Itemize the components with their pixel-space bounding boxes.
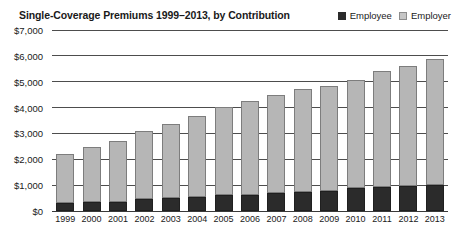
x-tick-label-2011: 2011: [372, 214, 391, 224]
bar-segment-employer-2007: [267, 95, 285, 193]
legend-label-employer: Employer: [411, 10, 451, 21]
bar-segment-employee-2003: [162, 198, 180, 211]
bar-2002[interactable]: [135, 30, 153, 211]
bar-segment-employee-2013: [426, 185, 444, 211]
bar-segment-employer-2001: [109, 141, 127, 201]
x-tick-label-2002: 2002: [134, 214, 154, 224]
bar-segment-employee-2002: [135, 199, 153, 211]
x-tick-label-2007: 2007: [266, 214, 286, 224]
bar-segment-employee-2010: [347, 188, 365, 211]
bar-segment-employer-2003: [162, 124, 180, 198]
chart-legend: Employee Employer: [338, 10, 451, 21]
y-tick-label-2000: $2,000: [14, 154, 43, 165]
bar-segment-employee-2011: [373, 187, 391, 211]
legend-item-employee[interactable]: Employee: [338, 10, 392, 21]
bar-2000[interactable]: [83, 30, 101, 211]
x-tick-label-2013: 2013: [425, 214, 445, 224]
chart-plot-area: [52, 30, 448, 211]
x-tick-label-2009: 2009: [319, 214, 339, 224]
bar-2011[interactable]: [373, 30, 391, 211]
legend-swatch-employee-icon: [338, 12, 346, 20]
bar-segment-employer-2005: [215, 107, 233, 195]
bar-segment-employer-2013: [426, 59, 444, 185]
bar-2004[interactable]: [188, 30, 206, 211]
bar-segment-employer-2008: [294, 89, 312, 192]
bar-segment-employee-2009: [320, 191, 338, 211]
bar-segment-employer-2002: [135, 131, 153, 199]
y-tick-label-3000: $3,000: [14, 128, 43, 139]
bar-segment-employee-2006: [241, 195, 259, 211]
bar-segment-employer-2006: [241, 101, 259, 194]
bar-1999[interactable]: [56, 30, 74, 211]
bar-segment-employer-2012: [399, 66, 417, 187]
x-tick-label-2001: 2001: [108, 214, 128, 224]
bar-2013[interactable]: [426, 30, 444, 211]
bar-segment-employer-2000: [83, 147, 101, 202]
x-tick-label-1999: 1999: [55, 214, 75, 224]
x-tick-label-2000: 2000: [82, 214, 102, 224]
bar-2008[interactable]: [294, 30, 312, 211]
y-tick-label-5000: $5,000: [14, 76, 43, 87]
y-tick-label-4000: $4,000: [14, 102, 43, 113]
bar-2012[interactable]: [399, 30, 417, 211]
legend-swatch-employer-icon: [399, 12, 407, 20]
bar-2006[interactable]: [241, 30, 259, 211]
x-tick-label-2012: 2012: [398, 214, 418, 224]
bar-segment-employee-1999: [56, 203, 74, 211]
bar-segment-employee-2008: [294, 192, 312, 211]
bar-segment-employer-2010: [347, 80, 365, 187]
y-tick-label-0: $0: [32, 206, 43, 217]
bar-segment-employee-2004: [188, 197, 206, 211]
bar-2009[interactable]: [320, 30, 338, 211]
chart-title: Single-Coverage Premiums 1999–2013, by C…: [19, 9, 290, 21]
bar-segment-employee-2007: [267, 193, 285, 211]
chart-screenshot: Single-Coverage Premiums 1999–2013, by C…: [0, 0, 457, 243]
bar-2010[interactable]: [347, 30, 365, 211]
bar-segment-employee-2001: [109, 202, 127, 211]
bar-segment-employer-2011: [373, 71, 391, 188]
legend-item-employer[interactable]: Employer: [399, 10, 451, 21]
bar-segment-employee-2000: [83, 202, 101, 211]
y-tick-label-7000: $7,000: [14, 25, 43, 36]
x-tick-label-2010: 2010: [346, 214, 366, 224]
bar-2007[interactable]: [267, 30, 285, 211]
bar-segment-employer-1999: [56, 154, 74, 203]
bar-segment-employee-2012: [399, 186, 417, 211]
bar-2005[interactable]: [215, 30, 233, 211]
bar-segment-employer-2009: [320, 86, 338, 191]
bar-segment-employer-2004: [188, 116, 206, 197]
chart-header: Single-Coverage Premiums 1999–2013, by C…: [19, 9, 451, 25]
bar-2003[interactable]: [162, 30, 180, 211]
bar-2001[interactable]: [109, 30, 127, 211]
x-tick-label-2006: 2006: [240, 214, 260, 224]
x-tick-label-2003: 2003: [161, 214, 181, 224]
x-tick-label-2008: 2008: [293, 214, 313, 224]
x-tick-label-2005: 2005: [214, 214, 234, 224]
bar-segment-employee-2005: [215, 195, 233, 211]
y-tick-label-1000: $1,000: [14, 180, 43, 191]
y-tick-label-6000: $6,000: [14, 50, 43, 61]
x-tick-label-2004: 2004: [187, 214, 207, 224]
legend-label-employee: Employee: [350, 10, 392, 21]
bar-series-layer: [52, 30, 448, 211]
